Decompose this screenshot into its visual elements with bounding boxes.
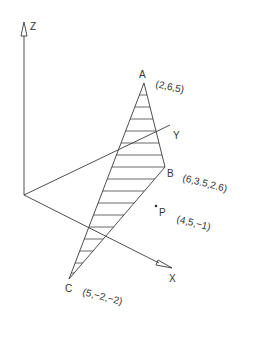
y-axis	[24, 125, 170, 195]
point-a-coords: (2,6,5)	[155, 78, 186, 95]
hatch-lines	[60, 95, 175, 273]
axes	[21, 22, 172, 268]
triangle-abc	[60, 83, 175, 279]
point-c-label: C	[65, 283, 72, 294]
y-axis-label: Y	[173, 130, 180, 141]
diagram-canvas: Z Y X A (2,6,5) B (6,3.5,2.6) P (4,5,−1)…	[0, 0, 253, 345]
triangle-outline	[69, 83, 165, 279]
z-axis-label: Z	[30, 21, 36, 32]
point-c-coords: (5,−2,−2)	[82, 286, 124, 306]
point-b-coords: (6,3.5,2.6)	[182, 172, 229, 194]
x-axis-arrow-icon	[156, 260, 172, 268]
x-axis-label: X	[169, 273, 176, 284]
point-p-coords: (4,5,−1)	[176, 213, 212, 232]
point-p-label: P	[159, 207, 166, 218]
z-axis-arrow-icon	[21, 22, 27, 36]
point-b-label: B	[167, 168, 174, 179]
point-a-label: A	[139, 69, 146, 80]
point-p-dot	[155, 205, 158, 208]
